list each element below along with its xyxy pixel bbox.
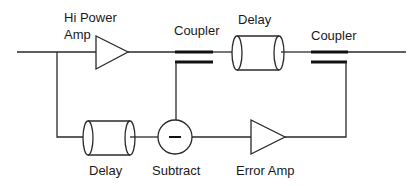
- input-branch-wire: [57, 52, 88, 137]
- delay-cylinder-end-icon: [83, 121, 93, 155]
- delay-top-label: Delay: [238, 12, 272, 27]
- hi-power-amp-label-line1: Hi Power: [64, 10, 117, 25]
- coupler-1-label: Coupler: [174, 23, 220, 38]
- amplifier-triangle-icon: [96, 36, 128, 69]
- coupler-1: [175, 52, 213, 62]
- subtractor: [158, 120, 192, 154]
- delay-bottom-label: Delay: [89, 163, 123, 178]
- error-amp-to-coupler2-wire: [285, 62, 346, 137]
- feedforward-diagram: Hi Power Amp Coupler Delay Coupler Delay: [0, 0, 418, 186]
- amplifier-triangle-icon: [251, 120, 285, 154]
- error-amp: [251, 120, 285, 154]
- error-amp-label: Error Amp: [236, 163, 295, 178]
- delay-cylinder-end-icon: [232, 36, 242, 70]
- hi-power-amp-label-line2: Amp: [64, 27, 91, 42]
- hi-power-amp: [96, 36, 128, 69]
- delay-bottom: [83, 121, 135, 155]
- delay-cylinder-end-icon: [279, 36, 284, 70]
- subtract-label: Subtract: [152, 163, 201, 178]
- coupler-2: [311, 52, 348, 62]
- delay-top: [232, 36, 284, 70]
- coupler-2-label: Coupler: [311, 28, 357, 43]
- delay-cylinder-end-icon: [130, 121, 135, 155]
